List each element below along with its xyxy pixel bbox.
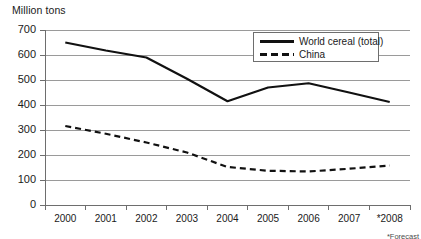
y-axis-tick-label: 300 <box>2 123 36 135</box>
y-axis-tick-label: 100 <box>2 173 36 185</box>
y-axis-tick-label: 600 <box>2 48 36 60</box>
y-axis-tick-label: 500 <box>2 73 36 85</box>
legend-label-world-cereal: World cereal (total) <box>299 37 383 47</box>
y-axis-tick-label: 400 <box>2 98 36 110</box>
footnote: *Forecast <box>387 232 419 239</box>
chart-figure: Million tons 0100200300400500600700 2000… <box>0 0 421 239</box>
legend: World cereal (total) China <box>253 32 379 62</box>
x-axis-tick-label: 2001 <box>86 213 127 224</box>
legend-solid-line-icon <box>260 37 294 46</box>
x-axis-tick-label: 2005 <box>248 213 289 224</box>
x-axis-tick-label: 2004 <box>207 213 248 224</box>
y-axis-tick-label: 200 <box>2 148 36 160</box>
y-axis-tick-label: 700 <box>2 23 36 35</box>
y-axis-tick-label: 0 <box>2 198 36 210</box>
x-axis-tick-label: 2002 <box>126 213 167 224</box>
legend-dashed-line-icon <box>260 50 294 59</box>
x-axis-tick-label: *2008 <box>369 213 410 224</box>
x-axis-tick-label: 2007 <box>329 213 370 224</box>
x-axis-tick-label: 2003 <box>167 213 208 224</box>
legend-item-china: China <box>260 48 325 61</box>
x-axis-tick-label: 2000 <box>45 213 86 224</box>
legend-item-world-cereal: World cereal (total) <box>260 35 383 48</box>
legend-label-china: China <box>299 50 325 60</box>
x-axis-tick-label: 2006 <box>288 213 329 224</box>
